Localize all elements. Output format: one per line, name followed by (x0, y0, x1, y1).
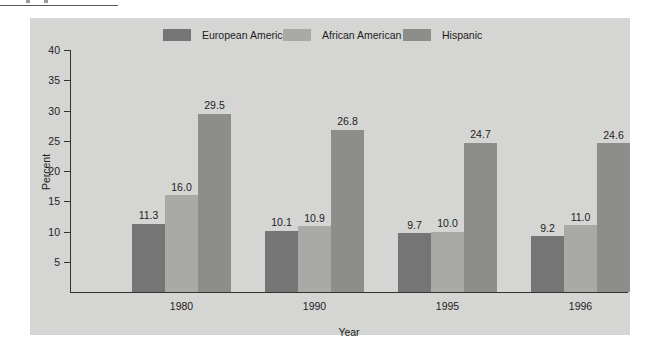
bar[interactable]: 10.0 (431, 232, 464, 293)
caption-glyph-fragment (26, 0, 30, 3)
legend-item-hispanic: Hispanic (403, 26, 482, 44)
bar-value-label: 9.7 (407, 220, 422, 231)
bar-group: 9.211.024.6 (531, 50, 630, 292)
chart-legend: European American African American Hispa… (30, 26, 630, 46)
y-axis-tick-mark (64, 232, 70, 233)
bar-value-label: 9.2 (540, 223, 555, 234)
y-axis-tick-label: 10 (48, 226, 60, 237)
bar-value-label: 26.8 (337, 116, 357, 127)
y-axis-tick-mark (64, 80, 70, 81)
legend-item-african-american: African American (283, 26, 401, 44)
bar[interactable]: 24.6 (597, 143, 630, 292)
bar-group: 10.110.926.8 (265, 50, 364, 292)
y-axis-tick-mark (64, 201, 70, 202)
bar-value-label: 10.0 (437, 218, 457, 229)
legend-label-hispanic: Hispanic (442, 29, 482, 41)
y-axis-line (70, 50, 71, 293)
x-axis-title: Year (70, 327, 628, 338)
bar-group: 11.316.029.5 (132, 50, 231, 292)
y-axis-tick-mark (64, 111, 70, 112)
bar-value-label: 10.9 (304, 213, 324, 224)
bar-value-label: 29.5 (204, 100, 224, 111)
legend-label-european-american: European American (202, 29, 294, 41)
bar-value-label: 16.0 (171, 182, 191, 193)
x-axis-tick-label: 1995 (398, 301, 497, 312)
bar-value-label: 10.1 (271, 217, 291, 228)
bar[interactable]: 29.5 (198, 114, 231, 292)
y-axis-tick-mark (64, 262, 70, 263)
bar[interactable]: 24.7 (464, 143, 497, 292)
bar-value-label: 24.6 (603, 130, 623, 141)
bar[interactable]: 11.3 (132, 224, 165, 292)
legend-swatch-hispanic (403, 29, 431, 41)
x-axis-tick-label: 1996 (531, 301, 630, 312)
y-axis-tick-mark (64, 50, 70, 51)
y-axis-tick-label: 5 (54, 257, 60, 268)
caption-underline-rule (0, 5, 118, 6)
x-axis-tick-label: 1980 (132, 301, 231, 312)
caption-glyph-fragment (44, 0, 48, 3)
legend-label-african-american: African American (322, 29, 401, 41)
bar-value-label: 11.0 (571, 212, 591, 223)
bar[interactable]: 9.2 (531, 236, 564, 292)
x-axis-tick-label: 1990 (265, 301, 364, 312)
y-axis-tick-label: 25 (48, 136, 60, 147)
chart-panel: European American African American Hispa… (30, 18, 630, 335)
bar[interactable]: 26.8 (331, 130, 364, 292)
bar-value-label: 11.3 (139, 210, 159, 221)
y-axis-tick-label: 30 (48, 105, 60, 116)
plot-area: 510152025303540 Percent 11.316.029.510.1… (70, 50, 628, 293)
bar[interactable]: 11.0 (564, 225, 597, 292)
y-axis-tick-label: 35 (48, 75, 60, 86)
legend-item-european-american: European American (163, 26, 294, 44)
bar[interactable]: 16.0 (165, 195, 198, 292)
bar[interactable]: 10.9 (298, 226, 331, 292)
x-axis-line (70, 292, 628, 293)
legend-swatch-european-american (163, 29, 191, 41)
cropped-caption-remnant (0, 0, 118, 7)
y-axis-tick-label: 15 (48, 196, 60, 207)
y-axis-title: Percent (40, 153, 52, 189)
bar[interactable]: 10.1 (265, 231, 298, 292)
bar-group: 9.710.024.7 (398, 50, 497, 292)
bar-value-label: 24.7 (470, 129, 490, 140)
legend-swatch-african-american (283, 29, 311, 41)
y-axis-tick-mark (64, 141, 70, 142)
bar[interactable]: 9.7 (398, 233, 431, 292)
y-axis-tick-label: 40 (48, 45, 60, 56)
y-axis-tick-mark (64, 171, 70, 172)
